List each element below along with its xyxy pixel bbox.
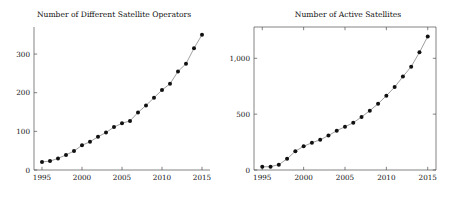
data-point [285,157,289,161]
figure-container: Number of Different Satellite Operators … [0,0,460,214]
satellites-axes: 05001,000 19952000200520102015 [230,27,437,182]
x-tick-labels-operators: 19952000200520102015 [33,173,212,182]
axis-frame-satellites [254,27,436,170]
data-point [326,134,330,138]
x-tick-label: 2000 [73,173,92,182]
y-tick-label: 500 [236,110,250,119]
operators-axes: 0100200300 19952000200520102015 [16,27,211,182]
data-point [269,165,273,169]
satellites-chart-svg: Number of Active Satellites 05001,000 19… [230,0,460,214]
data-point [168,82,172,86]
x-tick-label: 2015 [193,173,212,182]
y-tick-label: 0 [245,166,250,175]
chart-panel-satellites: Number of Active Satellites 05001,000 19… [230,0,460,214]
data-point [72,149,76,153]
data-point [120,121,124,125]
data-point [318,138,322,142]
x-tick-label: 2010 [153,173,172,182]
x-tick-labels-satellites: 19952000200520102015 [253,173,437,182]
operators-series [40,33,204,164]
data-point [260,165,264,169]
operators-chart-svg: Number of Different Satellite Operators … [0,0,230,214]
data-point [104,131,108,135]
data-point [128,119,132,123]
chart-title-satellites: Number of Active Satellites [295,10,401,19]
data-point [417,50,421,54]
data-point [160,88,164,92]
data-point [351,121,355,125]
y-tick-labels-satellites: 05001,000 [230,54,250,175]
x-tick-label: 2010 [377,173,396,182]
series-line-operators [42,35,202,162]
series-markers-operators [40,33,204,164]
data-point [376,102,380,106]
data-point [112,125,116,129]
x-tick-label: 2005 [336,173,355,182]
y-tick-label: 200 [16,88,30,97]
data-point [176,69,180,73]
data-point [88,140,92,144]
data-point [360,115,364,119]
chart-panel-operators: Number of Different Satellite Operators … [0,0,230,214]
data-point [64,153,68,157]
chart-title-operators: Number of Different Satellite Operators [37,10,191,19]
y-tick-label: 300 [16,50,30,59]
series-markers-satellites [260,35,429,169]
data-point [144,103,148,107]
data-point [426,35,430,39]
data-point [393,85,397,89]
data-point [335,129,339,133]
data-point [343,125,347,129]
axis-ticks-satellites [254,27,436,170]
data-point [277,163,281,167]
series-line-satellites [262,37,427,167]
axis-frame-operators [34,27,210,170]
data-point [184,62,188,66]
data-point [302,144,306,148]
x-tick-label: 1995 [33,173,52,182]
data-point [48,159,52,163]
data-point [152,96,156,100]
y-tick-labels-operators: 0100200300 [16,50,30,175]
y-tick-label: 1,000 [230,54,250,63]
data-point [200,33,204,37]
y-tick-label: 0 [25,166,30,175]
y-tick-label: 100 [16,127,30,136]
data-point [56,156,60,160]
satellites-series [260,35,429,169]
x-tick-label: 2005 [113,173,132,182]
data-point [409,65,413,69]
data-point [310,141,314,145]
data-point [368,109,372,113]
data-point [80,143,84,147]
data-point [401,75,405,79]
data-point [96,135,100,139]
data-point [136,110,140,114]
x-tick-label: 2015 [419,173,438,182]
x-tick-label: 2000 [294,173,313,182]
data-point [40,160,44,164]
data-point [293,149,297,153]
x-tick-label: 1995 [253,173,272,182]
data-point [192,46,196,50]
data-point [384,94,388,98]
